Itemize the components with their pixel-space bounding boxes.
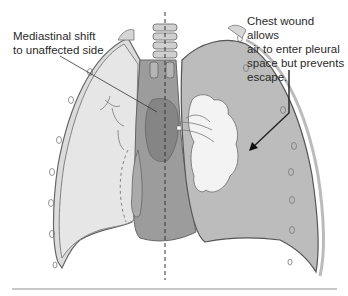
- mediastinal-shift-label: Mediastinal shift to unaffected side: [13, 29, 104, 57]
- chest-wound-label: Chest wound allows air to enter pleural …: [247, 14, 348, 84]
- bottom-divider: [12, 288, 337, 290]
- left-chest-wall: [49, 29, 141, 268]
